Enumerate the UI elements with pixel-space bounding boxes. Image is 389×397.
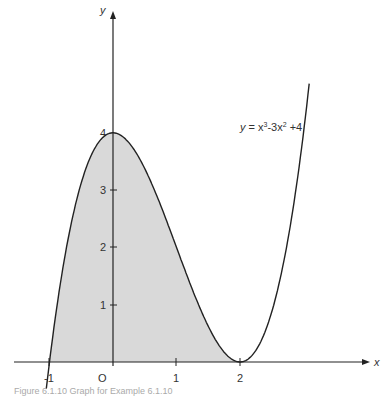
origin-label: O (98, 372, 107, 384)
y-axis-label: y (99, 4, 107, 16)
figure-caption: Figure 6.1.10 Graph for Example 6.1.10 (14, 386, 173, 396)
y-tick-label: 4 (100, 127, 106, 139)
y-axis-arrow-icon (110, 11, 116, 19)
function-graph: x y -1 O 1 2 1 2 3 4 y = x3-3x2 +4 (0, 0, 389, 397)
x-axis-arrow-icon (362, 359, 370, 365)
y-tick-label: 1 (100, 299, 106, 311)
x-tick-label: 2 (237, 372, 243, 384)
x-tick-label: -1 (44, 372, 54, 384)
x-tick-label: 1 (173, 372, 179, 384)
x-axis-label: x (373, 356, 380, 368)
y-tick-label: 3 (100, 184, 106, 196)
y-tick-label: 2 (100, 241, 106, 253)
function-equation-label: y = x3-3x2 +4 (239, 121, 302, 133)
